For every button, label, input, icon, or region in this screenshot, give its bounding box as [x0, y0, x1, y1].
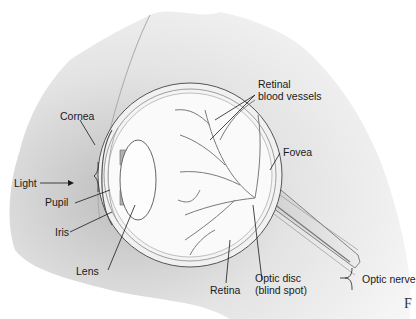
eyeball: [98, 83, 282, 267]
label-iris: Iris: [55, 226, 69, 238]
label-optic-disc: Optic disc (blind spot): [255, 272, 307, 296]
label-retina: Retina: [210, 284, 240, 296]
label-retinal-blood-vessels: Retinal blood vessels: [258, 78, 322, 102]
label-optic-nerve: Optic nerve: [362, 273, 416, 285]
figure-marker: F: [404, 296, 412, 312]
label-fovea: Fovea: [283, 146, 312, 158]
lens-shape: [120, 140, 156, 220]
label-lens: Lens: [76, 265, 99, 277]
label-pupil: Pupil: [45, 196, 68, 208]
label-cornea: Cornea: [60, 110, 94, 122]
label-light: Light: [14, 177, 37, 189]
